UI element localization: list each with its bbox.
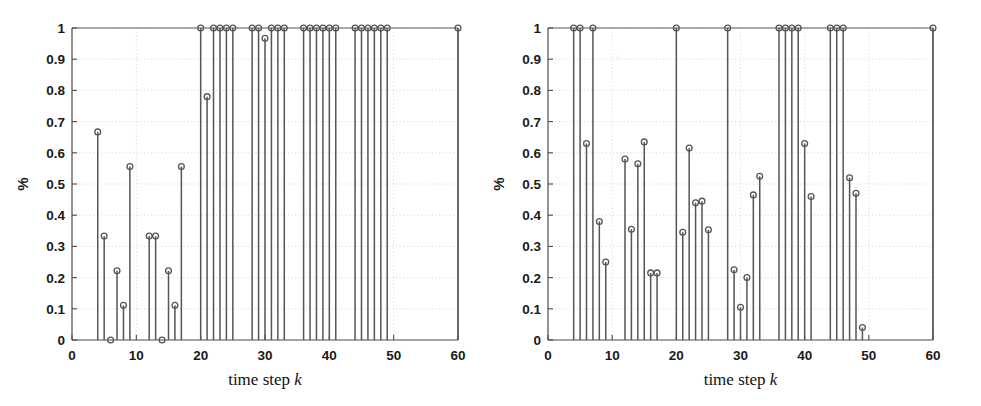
y-tick-label: 0.5 xyxy=(46,177,65,192)
y-tick-label: 0.3 xyxy=(522,239,541,254)
y-axis-label: % xyxy=(490,177,507,190)
x-tick-label: 30 xyxy=(733,348,748,363)
x-tick-label: 40 xyxy=(322,348,337,363)
x-tick-label: 10 xyxy=(605,348,620,363)
x-tick-label: 60 xyxy=(450,348,465,363)
y-tick-label: 0.4 xyxy=(522,208,541,223)
x-tick-label: 50 xyxy=(861,348,876,363)
y-tick-label: 1 xyxy=(533,21,541,36)
y-tick-label: 0 xyxy=(57,333,65,348)
y-tick-label: 0.5 xyxy=(522,177,541,192)
y-tick-label: 0.9 xyxy=(522,52,541,67)
y-tick-label: 1 xyxy=(57,21,65,36)
y-tick-label: 0.6 xyxy=(46,146,65,161)
panel-left: 00.10.20.30.40.50.60.70.80.9101020304050… xyxy=(0,0,490,406)
y-axis-label: % xyxy=(14,177,31,190)
y-tick-label: 0.9 xyxy=(46,52,65,67)
x-tick-label: 0 xyxy=(68,348,76,363)
y-tick-label: 0.8 xyxy=(522,83,541,98)
y-tick-label: 0.2 xyxy=(46,271,65,286)
y-tick-label: 0.1 xyxy=(46,302,65,317)
tick-labels: 00.10.20.30.40.50.60.70.80.9101020304050… xyxy=(522,21,940,363)
x-axis-label: time step k xyxy=(228,370,302,389)
y-tick-label: 0.7 xyxy=(46,115,65,130)
x-axis-label: time step k xyxy=(704,370,778,389)
y-tick-label: 0.7 xyxy=(522,115,541,130)
y-tick-label: 0.4 xyxy=(46,208,65,223)
y-tick-label: 0.2 xyxy=(522,271,541,286)
x-tick-label: 40 xyxy=(797,348,812,363)
y-tick-label: 0.6 xyxy=(522,146,541,161)
y-tick-label: 0 xyxy=(533,333,541,348)
x-tick-label: 20 xyxy=(669,348,684,363)
panel-right: 00.10.20.30.40.50.60.70.80.9101020304050… xyxy=(490,0,981,406)
tick-labels: 00.10.20.30.40.50.60.70.80.9101020304050… xyxy=(46,21,465,363)
figure-row: 00.10.20.30.40.50.60.70.80.9101020304050… xyxy=(0,0,981,406)
stem-plot-left: 00.10.20.30.40.50.60.70.80.9101020304050… xyxy=(0,0,490,406)
stem-plot-right: 00.10.20.30.40.50.60.70.80.9101020304050… xyxy=(490,0,981,406)
x-tick-label: 30 xyxy=(257,348,272,363)
y-tick-label: 0.8 xyxy=(46,83,65,98)
x-tick-label: 20 xyxy=(193,348,208,363)
stem-series xyxy=(571,25,936,340)
stem-series xyxy=(95,25,461,343)
y-tick-label: 0.1 xyxy=(522,302,541,317)
x-tick-label: 10 xyxy=(129,348,144,363)
x-tick-label: 60 xyxy=(925,348,940,363)
y-tick-label: 0.3 xyxy=(46,239,65,254)
x-tick-label: 50 xyxy=(386,348,401,363)
x-tick-label: 0 xyxy=(544,348,552,363)
